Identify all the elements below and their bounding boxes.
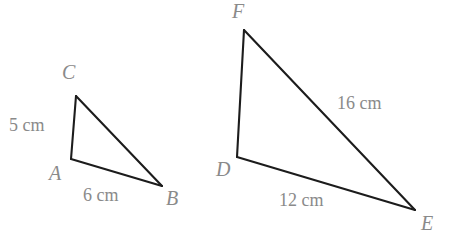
segment-ef	[244, 30, 415, 210]
triangle-abc-shape	[71, 96, 162, 186]
vertex-label-f: F	[232, 1, 244, 21]
vertex-label-c: C	[62, 62, 75, 82]
side-length-ac: 5 cm	[9, 116, 45, 134]
vertex-label-d: D	[216, 159, 230, 179]
segment-ca	[71, 96, 76, 159]
segment-fd	[237, 30, 244, 157]
vertex-label-b: B	[166, 188, 178, 208]
side-length-ab: 6 cm	[83, 186, 119, 204]
vertex-label-e: E	[421, 213, 433, 233]
segment-de	[237, 157, 415, 210]
vertex-label-a: A	[49, 163, 61, 183]
geometry-diagram: C A B 5 cm 6 cm F D E 16 cm 12 cm	[0, 0, 461, 248]
side-length-de: 12 cm	[279, 191, 324, 209]
side-length-fe: 16 cm	[337, 94, 382, 112]
triangle-def-shape	[237, 30, 415, 210]
triangles-canvas	[0, 0, 461, 248]
